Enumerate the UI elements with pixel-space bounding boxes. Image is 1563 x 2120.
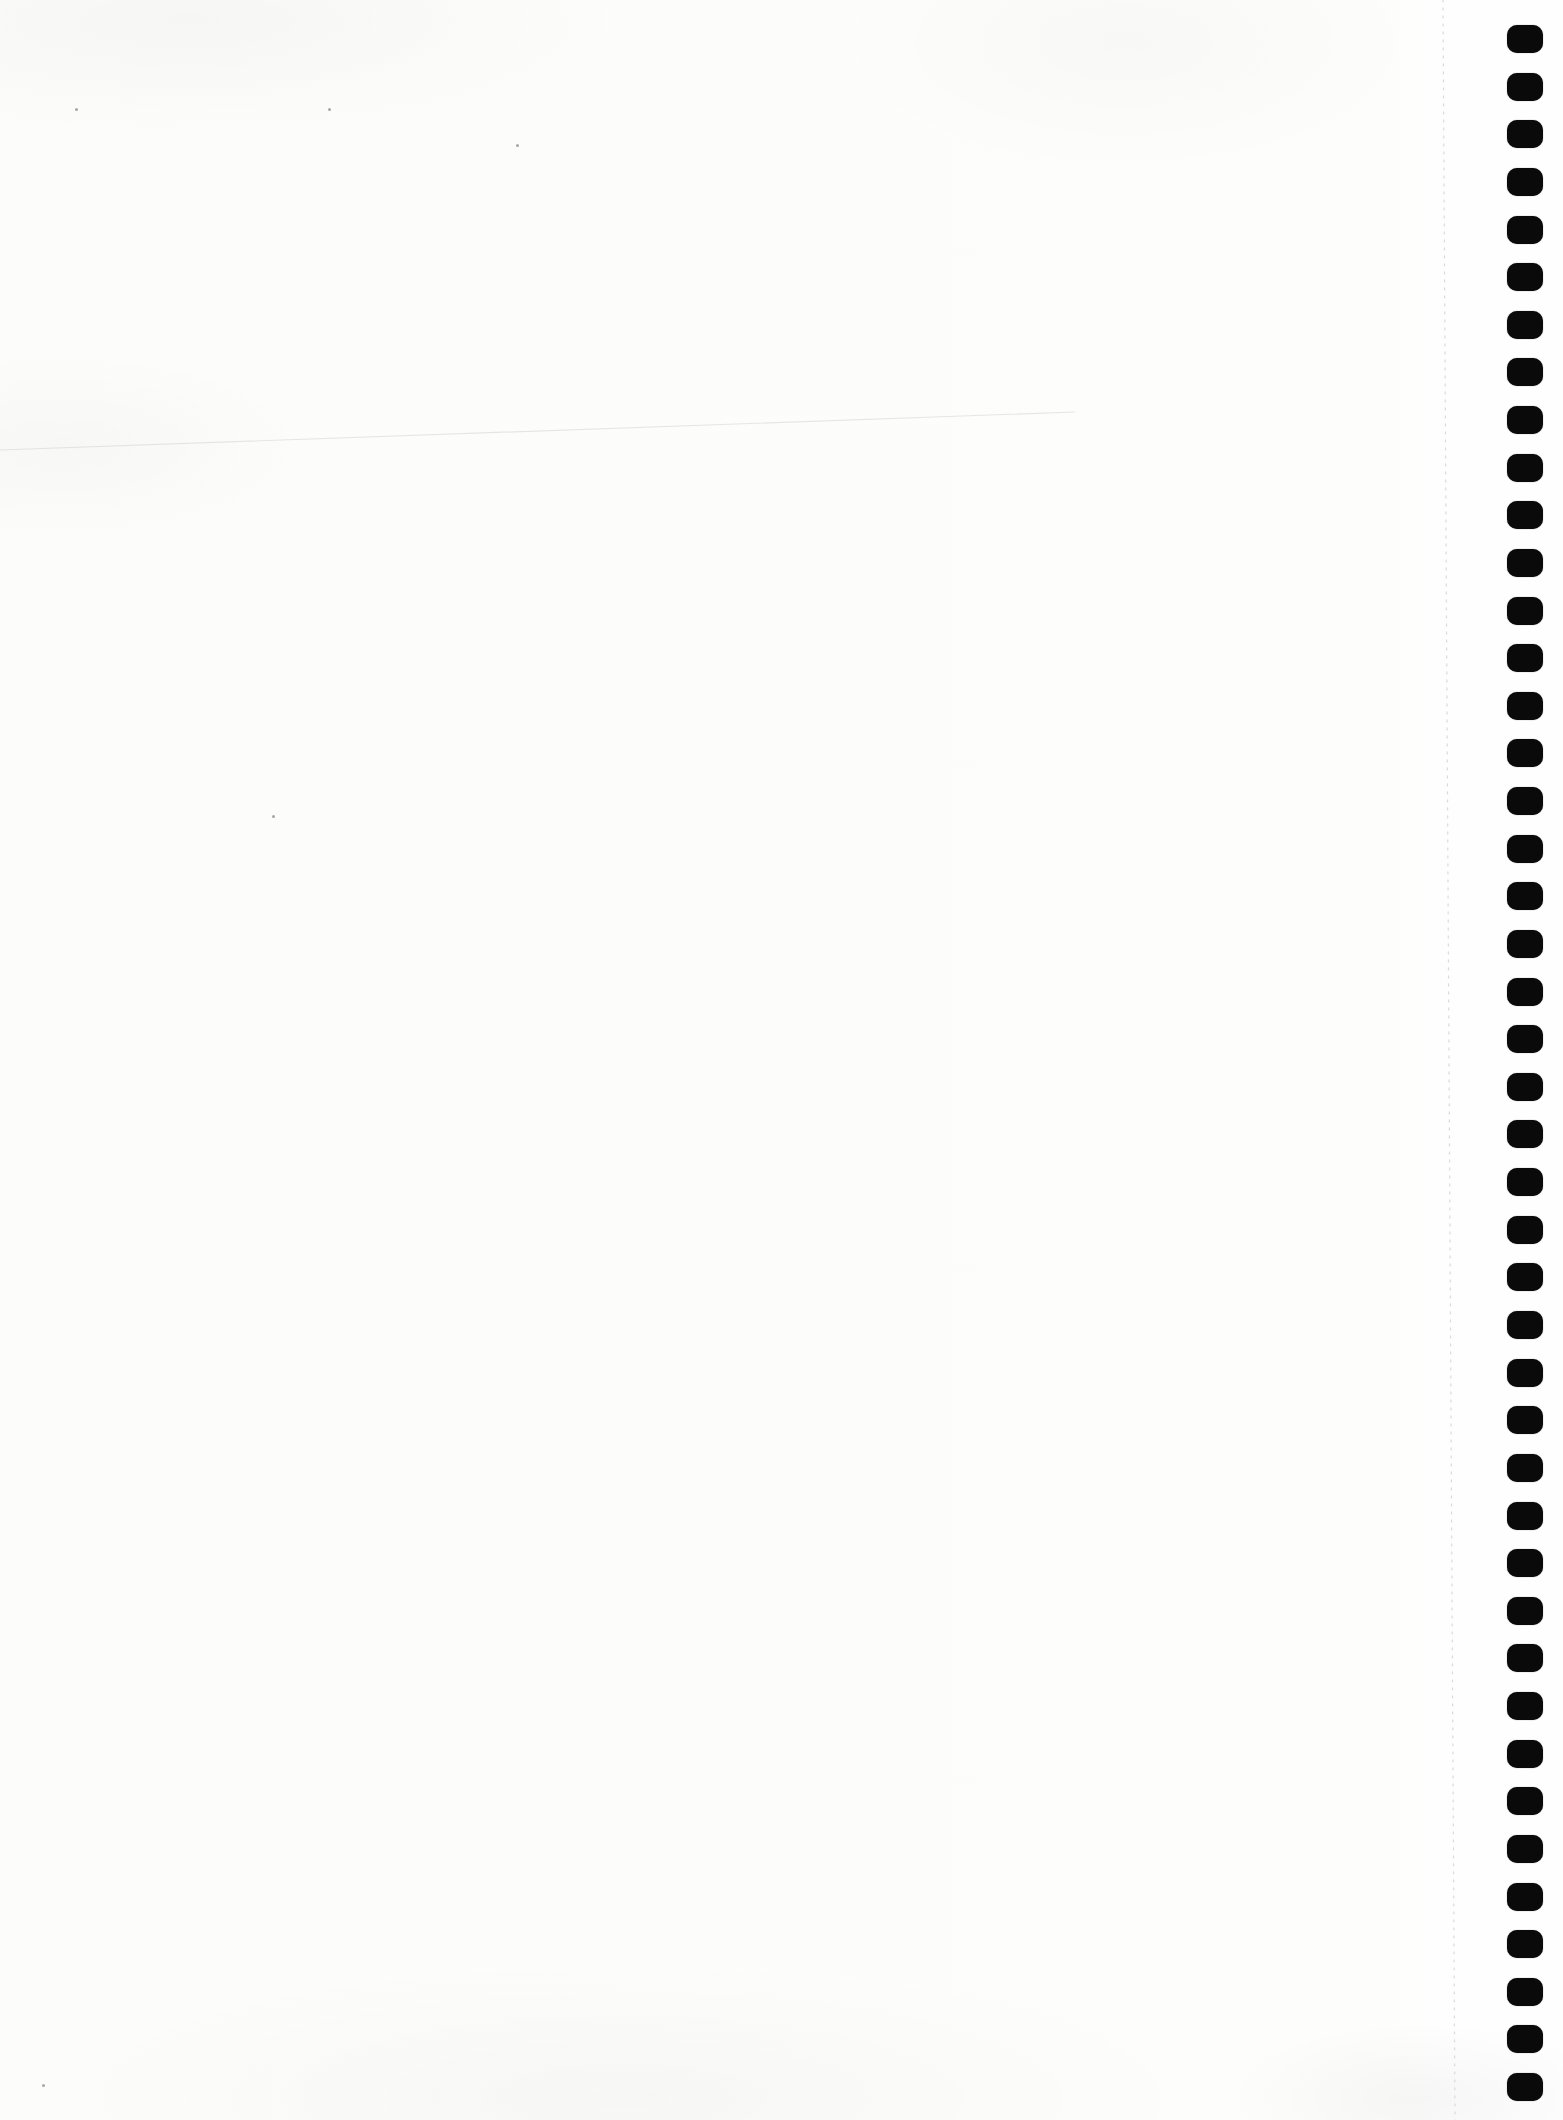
binding-hole	[1507, 597, 1543, 625]
binding-hole	[1507, 1930, 1543, 1958]
binding-hole	[1507, 787, 1543, 815]
binding-hole	[1507, 1740, 1543, 1768]
binding-hole	[1507, 1978, 1543, 2006]
binding-hole	[1507, 1454, 1543, 1482]
binding-hole	[1507, 644, 1543, 672]
binding-hole	[1507, 73, 1543, 101]
binding-hole	[1507, 882, 1543, 910]
binding-hole	[1507, 1502, 1543, 1530]
binding-hole	[1507, 835, 1543, 863]
binding-hole	[1507, 454, 1543, 482]
binding-hole	[1507, 1359, 1543, 1387]
binding-hole	[1507, 358, 1543, 386]
binding-hole	[1507, 739, 1543, 767]
binding-hole	[1507, 1787, 1543, 1815]
crease-line	[0, 412, 1075, 450]
binding-hole	[1507, 1311, 1543, 1339]
scan-speck	[272, 815, 275, 818]
binding-hole	[1507, 501, 1543, 529]
binding-hole	[1507, 1597, 1543, 1625]
binding-hole	[1507, 25, 1543, 53]
binding-hole	[1507, 2025, 1543, 2053]
scan-speck	[42, 2084, 45, 2087]
binding-hole	[1507, 168, 1543, 196]
scan-speck	[328, 108, 331, 111]
binding-hole	[1507, 2073, 1543, 2101]
binding-hole	[1507, 1216, 1543, 1244]
binding-hole	[1507, 1406, 1543, 1434]
scan-speck	[75, 108, 78, 111]
binding-hole	[1507, 263, 1543, 291]
binding-hole	[1507, 978, 1543, 1006]
binding-hole	[1507, 1025, 1543, 1053]
binding-hole	[1507, 1549, 1543, 1577]
binding-hole	[1507, 1120, 1543, 1148]
binding-hole	[1507, 406, 1543, 434]
binding-hole	[1507, 1692, 1543, 1720]
perforation-line	[1443, 0, 1455, 2120]
scan-artifacts-layer	[0, 0, 1563, 2120]
binding-hole	[1507, 216, 1543, 244]
binding-hole	[1507, 311, 1543, 339]
binding-hole	[1507, 930, 1543, 958]
binding-hole	[1507, 1073, 1543, 1101]
binding-hole	[1507, 120, 1543, 148]
binding-hole	[1507, 1263, 1543, 1291]
scan-speck	[516, 144, 519, 147]
binding-hole	[1507, 1168, 1543, 1196]
binding-hole	[1507, 1835, 1543, 1863]
binding-hole	[1507, 692, 1543, 720]
binding-hole	[1507, 549, 1543, 577]
binding-hole	[1507, 1883, 1543, 1911]
binding-hole	[1507, 1644, 1543, 1672]
scanned-page	[0, 0, 1563, 2120]
